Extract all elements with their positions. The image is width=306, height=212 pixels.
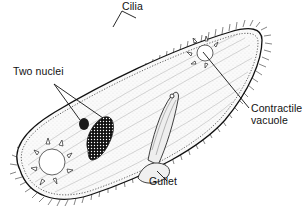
label-two-nuclei: Two nuclei bbox=[13, 66, 64, 77]
label-gullet: Gullet bbox=[149, 176, 177, 187]
cilia-leader bbox=[113, 11, 136, 27]
label-contractile-vacuole-2: vacuole bbox=[251, 115, 288, 126]
label-cilia: Cilia bbox=[122, 1, 143, 12]
micronucleus bbox=[79, 118, 89, 130]
paramecium-diagram: Cilia Two nuclei Contractile vacuole Gul… bbox=[0, 0, 306, 212]
label-contractile-vacuole-1: Contractile bbox=[251, 103, 302, 114]
